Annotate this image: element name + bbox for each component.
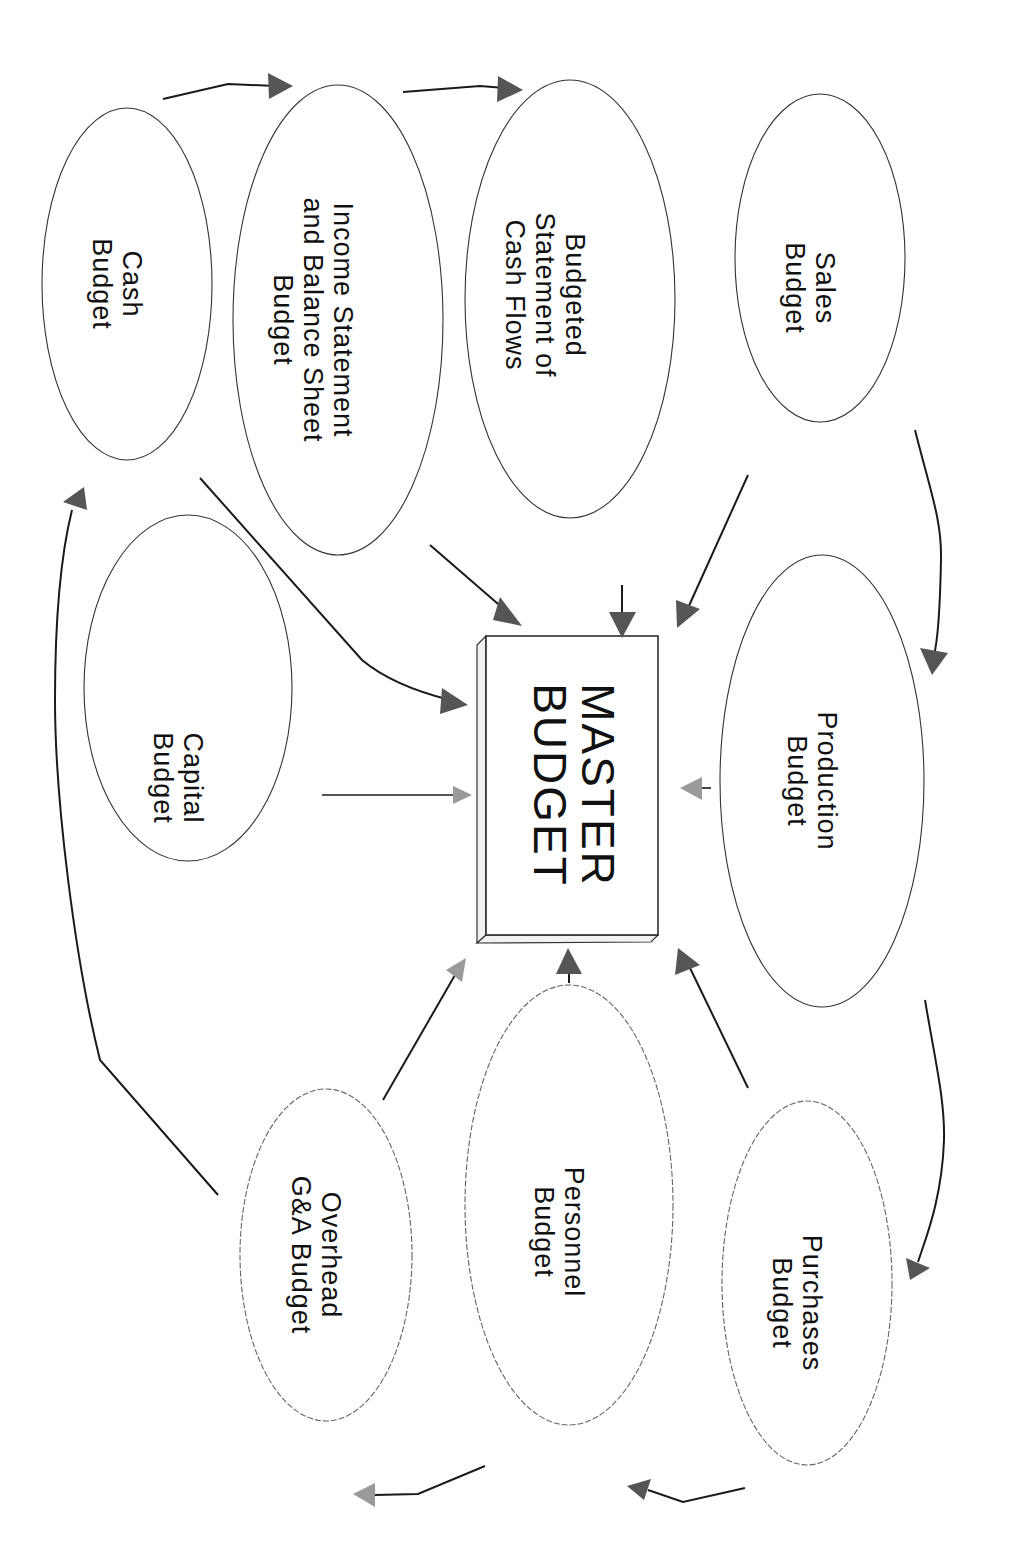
edge-cashflows-to-master [609, 585, 636, 638]
edge-production-to-purchases [906, 1000, 944, 1280]
node-label-cash-flows: Budgeted Statement of Cash Flows [550, 165, 590, 425]
edge-purchases-to-personnel [627, 1479, 745, 1502]
edge-overhead-to-master [383, 958, 466, 1100]
node-label-income-statement: Income Statement and Balance Sheet Budge… [318, 170, 358, 470]
node-label-cash-budget: Cash Budget [107, 184, 147, 384]
node-label-production-budget: Production Budget [802, 661, 842, 901]
edge-purchases-to-master [675, 948, 748, 1088]
edge-sales-to-master [676, 475, 748, 628]
edge-income-to-cashflows [403, 76, 523, 102]
edge-personnel-to-master [556, 948, 582, 983]
node-label-overhead-budget: Overhead G&A Budget [306, 1145, 346, 1365]
node-label-personnel-budget: Personnel Budget [549, 1112, 589, 1352]
edge-production-to-master [680, 777, 711, 800]
edge-income-to-master [430, 545, 522, 626]
node-label-purchases-budget: Purchases Budget [787, 1193, 827, 1413]
node-label-capital-budget: Capital Budget [168, 678, 208, 878]
edge-cash-to-income [163, 73, 293, 99]
edge-capital-to-master [322, 786, 472, 804]
edge-sales-to-production [915, 430, 948, 675]
node-label-sales-budget: Sales Budget [800, 188, 840, 388]
master-budget-label: MASTER BUDGET [522, 635, 622, 935]
edge-personnel-to-overhead [353, 1466, 485, 1507]
